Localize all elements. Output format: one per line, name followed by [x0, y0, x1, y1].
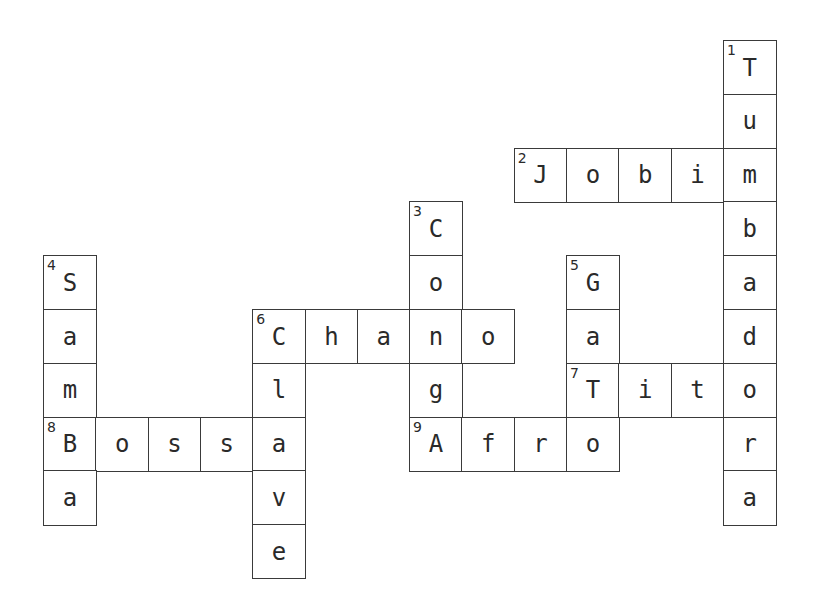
crossword-cell: 9A: [409, 417, 463, 472]
crossword-cell: a: [566, 309, 620, 364]
cell-letter: m: [63, 376, 77, 404]
clue-number: 7: [570, 366, 579, 380]
clue-number: 9: [413, 420, 422, 434]
cell-letter: B: [63, 430, 77, 458]
crossword-cell: 1T: [723, 40, 777, 95]
clue-number: 8: [47, 420, 56, 434]
cell-letter: r: [743, 430, 757, 458]
crossword-cell: 8B: [43, 417, 97, 472]
clue-number: 1: [727, 43, 736, 57]
cell-letter: u: [743, 107, 757, 135]
cell-letter: d: [743, 323, 757, 351]
crossword-cell: a: [43, 470, 97, 525]
cell-letter: T: [586, 376, 600, 404]
clue-number: 2: [518, 151, 527, 165]
cell-letter: l: [272, 376, 286, 404]
crossword-cell: i: [671, 148, 725, 203]
cell-letter: J: [533, 161, 547, 189]
cell-letter: i: [638, 376, 652, 404]
cell-letter: S: [63, 269, 77, 297]
crossword-grid: 1Tu2Jobim3Cb4So5Gaa6Chanoadmlg7Tito8Boss…: [0, 0, 815, 609]
cell-letter: o: [743, 376, 757, 404]
crossword-cell: o: [461, 309, 515, 364]
cell-letter: a: [743, 484, 757, 512]
crossword-cell: v: [252, 470, 306, 525]
cell-letter: f: [481, 430, 495, 458]
cell-letter: v: [272, 484, 286, 512]
cell-letter: A: [429, 430, 443, 458]
crossword-cell: m: [43, 363, 97, 418]
cell-letter: t: [690, 376, 704, 404]
cell-letter: a: [743, 269, 757, 297]
crossword-cell: 2J: [514, 148, 568, 203]
crossword-cell: a: [723, 470, 777, 525]
clue-number: 6: [256, 312, 265, 326]
clue-number: 4: [47, 258, 56, 272]
cell-letter: T: [743, 54, 757, 82]
crossword-cell: o: [566, 148, 620, 203]
cell-letter: r: [533, 430, 547, 458]
crossword-cell: o: [409, 255, 463, 310]
cell-letter: o: [481, 323, 495, 351]
cell-letter: a: [272, 430, 286, 458]
crossword-cell: g: [409, 363, 463, 418]
cell-letter: C: [429, 215, 443, 243]
crossword-cell: f: [461, 417, 515, 472]
crossword-cell: d: [723, 309, 777, 364]
crossword-cell: t: [671, 363, 725, 418]
crossword-cell: a: [43, 309, 97, 364]
crossword-cell: n: [409, 309, 463, 364]
cell-letter: i: [690, 161, 704, 189]
cell-letter: a: [376, 323, 390, 351]
cell-letter: b: [743, 215, 757, 243]
cell-letter: b: [638, 161, 652, 189]
crossword-cell: o: [566, 417, 620, 472]
cell-letter: a: [586, 323, 600, 351]
crossword-cell: u: [723, 94, 777, 149]
cell-letter: a: [63, 323, 77, 351]
crossword-cell: e: [252, 524, 306, 579]
cell-letter: m: [743, 161, 757, 189]
crossword-cell: r: [723, 417, 777, 472]
cell-letter: s: [167, 430, 181, 458]
cell-letter: G: [586, 269, 600, 297]
crossword-cell: b: [723, 201, 777, 256]
crossword-cell: 4S: [43, 255, 97, 310]
cell-letter: o: [586, 161, 600, 189]
crossword-cell: l: [252, 363, 306, 418]
cell-letter: o: [429, 269, 443, 297]
crossword-cell: a: [357, 309, 411, 364]
cell-letter: e: [272, 538, 286, 566]
crossword-cell: o: [723, 363, 777, 418]
cell-letter: s: [220, 430, 234, 458]
clue-number: 5: [570, 258, 579, 272]
crossword-cell: s: [148, 417, 202, 472]
crossword-cell: 3C: [409, 201, 463, 256]
crossword-cell: i: [618, 363, 672, 418]
clue-number: 3: [413, 204, 422, 218]
crossword-cell: 7T: [566, 363, 620, 418]
cell-letter: g: [429, 376, 443, 404]
crossword-cell: b: [618, 148, 672, 203]
crossword-cell: 5G: [566, 255, 620, 310]
cell-letter: a: [63, 484, 77, 512]
cell-letter: n: [429, 323, 443, 351]
crossword-cell: a: [723, 255, 777, 310]
crossword-cell: r: [514, 417, 568, 472]
crossword-cell: a: [252, 417, 306, 472]
cell-letter: C: [272, 323, 286, 351]
cell-letter: o: [586, 430, 600, 458]
cell-letter: h: [324, 323, 338, 351]
crossword-cell: m: [723, 148, 777, 203]
cell-letter: o: [115, 430, 129, 458]
crossword-cell: o: [95, 417, 149, 472]
crossword-cell: 6C: [252, 309, 306, 364]
crossword-cell: h: [305, 309, 359, 364]
crossword-cell: s: [200, 417, 254, 472]
